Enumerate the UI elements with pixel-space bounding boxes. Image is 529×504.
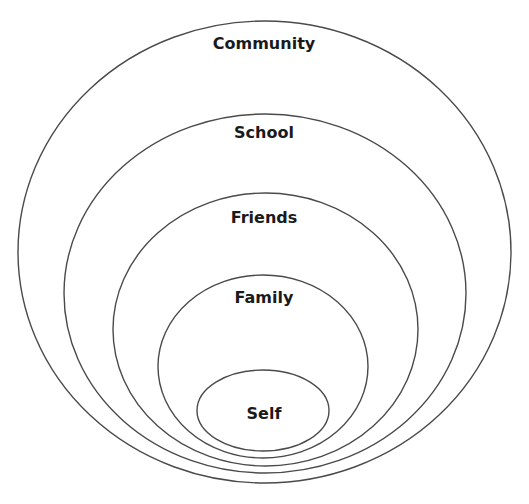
label-family: Family [235, 288, 294, 307]
ring-family: Family [158, 275, 368, 458]
label-self: Self [247, 404, 283, 423]
ellipse-friends [113, 193, 418, 466]
label-school: School [234, 123, 294, 142]
label-friends: Friends [231, 208, 298, 227]
ring-self: Self [197, 370, 329, 451]
label-community: Community [213, 34, 316, 53]
nested-circles-diagram: Community School Friends Family Self [0, 0, 529, 504]
ring-friends: Friends [113, 193, 418, 466]
